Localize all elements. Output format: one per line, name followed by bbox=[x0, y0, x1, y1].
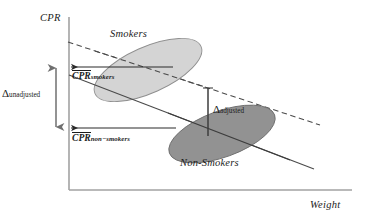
delta-adjusted-subscript: adjusted bbox=[220, 107, 244, 115]
cpr-smokers-mean-text: CPR bbox=[72, 70, 91, 81]
delta-unadjusted-label: Δunadjusted bbox=[2, 88, 40, 99]
x-axis-label: Weight bbox=[310, 200, 341, 211]
cpr-non-smokers-subscript: non−smokers bbox=[91, 135, 130, 142]
delta-adjusted-label: Δadjusted bbox=[213, 104, 244, 115]
cpr-non-smokers-mean-text: CPR bbox=[72, 132, 91, 143]
cpr-smokers-label: CPRsmokers bbox=[72, 70, 114, 81]
cpr-weight-diagram: CPR Weight Smokers Non-Smokers Δunadjust… bbox=[0, 0, 369, 221]
diagram-canvas bbox=[0, 0, 369, 221]
y-axis-label: CPR bbox=[40, 13, 61, 24]
non-smokers-group-label: Non-Smokers bbox=[180, 158, 239, 169]
cpr-non-smokers-label: CPRnon−smokers bbox=[72, 132, 130, 143]
smokers-group-label: Smokers bbox=[110, 29, 147, 40]
delta-unadjusted-subscript: unadjusted bbox=[9, 91, 40, 99]
cpr-smokers-subscript: smokers bbox=[91, 73, 115, 80]
